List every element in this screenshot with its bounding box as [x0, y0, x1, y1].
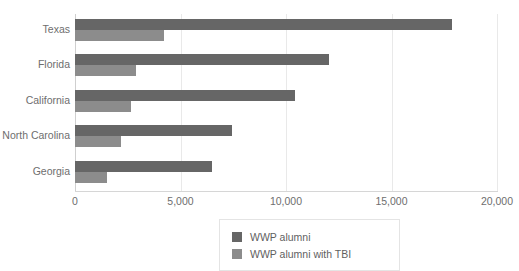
x-tick-10000: 10,000: [270, 195, 302, 207]
gridline-20000: [497, 14, 498, 191]
y-axis-label-florida: Florida: [0, 58, 70, 70]
bar-texas-series-0: [75, 19, 452, 30]
y-axis-labels: TexasFloridaCaliforniaNorth CarolinaGeor…: [0, 14, 70, 191]
plot-area: [75, 14, 497, 191]
bar-group: [75, 160, 497, 189]
legend-label-1: WWP alumni with TBI: [250, 248, 351, 260]
legend-label-0: WWP alumni: [250, 231, 310, 243]
x-tick-15000: 15,000: [375, 195, 407, 207]
y-axis-label-north-carolina: North Carolina: [0, 129, 70, 141]
y-axis-label-texas: Texas: [0, 23, 70, 35]
bar-group: [75, 18, 497, 47]
legend-swatch-icon-1: [232, 249, 242, 259]
bar-texas-series-1: [75, 30, 164, 41]
chart-legend: WWP alumniWWP alumni with TBI: [219, 219, 400, 271]
bar-group: [75, 89, 497, 118]
x-tick-0: 0: [72, 195, 78, 207]
bar-georgia-series-1: [75, 172, 107, 183]
x-tick-20000: 20,000: [481, 195, 513, 207]
bar-group: [75, 124, 497, 153]
bar-florida-series-0: [75, 54, 329, 65]
legend-swatch-icon-0: [232, 232, 242, 242]
bar-north-carolina-series-1: [75, 136, 121, 147]
bar-california-series-0: [75, 90, 295, 101]
bar-california-series-1: [75, 101, 131, 112]
legend-item-0[interactable]: WWP alumni: [232, 228, 389, 245]
x-axis-tick-labels: 05,00010,00015,00020,000: [0, 195, 519, 211]
y-axis-label-georgia: Georgia: [0, 165, 70, 177]
legend-item-1[interactable]: WWP alumni with TBI: [232, 245, 389, 262]
bar-north-carolina-series-0: [75, 125, 232, 136]
bar-georgia-series-0: [75, 161, 212, 172]
bar-florida-series-1: [75, 65, 136, 76]
bar-group: [75, 53, 497, 82]
x-axis-line: [75, 191, 498, 192]
y-axis-label-california: California: [0, 94, 70, 106]
x-tick-5000: 5,000: [167, 195, 193, 207]
